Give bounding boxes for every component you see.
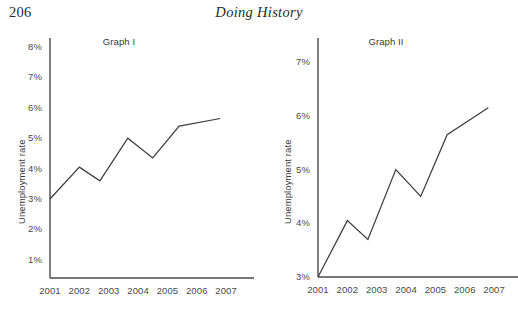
data-series-line: [50, 119, 220, 199]
y-tick-label: 5%: [2, 132, 42, 143]
x-tick-label: 2003: [361, 284, 393, 295]
y-tick-label: 4%: [270, 217, 310, 228]
y-tick-label: 4%: [2, 163, 42, 174]
running-head: 206 Doing History: [0, 3, 518, 25]
y-tick-label: 3%: [2, 193, 42, 204]
y-tick-label: 8%: [2, 41, 42, 52]
chart-graph-ii: Graph II Unemployment rate 3%4%5%6%7% 20…: [262, 28, 518, 313]
y-tick-label: 6%: [2, 102, 42, 113]
x-tick-label: 2001: [302, 284, 334, 295]
x-tick-label: 2002: [331, 284, 363, 295]
y-tick-label: 7%: [2, 71, 42, 82]
y-tick-label: 2%: [2, 223, 42, 234]
chart-graph-i: Graph I Unemployment rate 1%2%3%4%5%6%7%…: [0, 28, 262, 313]
x-tick-label: 2007: [478, 284, 510, 295]
y-tick-label: 7%: [270, 56, 310, 67]
x-tick-label: 2003: [93, 285, 125, 296]
x-tick-label: 2007: [210, 285, 242, 296]
y-tick-label: 6%: [270, 110, 310, 121]
x-tick-label: 2005: [419, 284, 451, 295]
figure-two-line-charts: Graph I Unemployment rate 1%2%3%4%5%6%7%…: [0, 28, 518, 313]
x-tick-label: 2004: [390, 284, 422, 295]
book-title: Doing History: [0, 4, 518, 21]
y-tick-label: 5%: [270, 164, 310, 175]
y-tick-label: 1%: [2, 254, 42, 265]
x-tick-label: 2005: [151, 285, 183, 296]
data-series-line: [318, 108, 488, 277]
x-tick-label: 2006: [181, 285, 213, 296]
x-tick-label: 2006: [449, 284, 481, 295]
x-tick-label: 2001: [34, 285, 66, 296]
x-tick-label: 2004: [122, 285, 154, 296]
x-tick-label: 2002: [63, 285, 95, 296]
y-tick-label: 3%: [270, 271, 310, 282]
book-page: 206 Doing History Graph I Unemployment r…: [0, 0, 518, 313]
